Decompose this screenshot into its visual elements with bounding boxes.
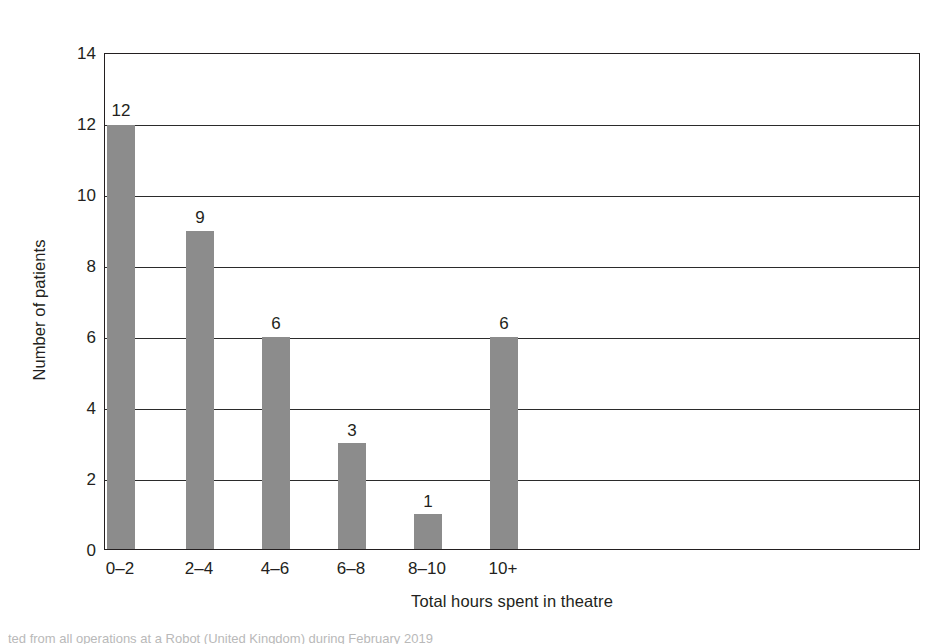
bar-value-label-0-2: 12 — [101, 102, 141, 119]
y-tick-label: 14 — [62, 45, 96, 62]
bar-chart-figure: Number of patients 14 12 10 8 6 4 2 0 12… — [0, 0, 951, 644]
bar-6-8[interactable] — [338, 443, 366, 549]
y-axis-tick-labels: 14 12 10 8 6 4 2 0 — [60, 0, 96, 644]
x-tick-label-10plus: 10+ — [465, 558, 541, 580]
y-tick-label: 4 — [62, 400, 96, 417]
bars-layer — [105, 54, 919, 549]
x-axis-tick-labels: 0–2 2–4 4–6 6–8 8–10 10+ — [104, 558, 920, 586]
y-tick-label: 10 — [62, 187, 96, 204]
bar-0-2[interactable] — [107, 125, 135, 549]
figure-source-caption: ted from all operations at a Robot (Unit… — [8, 632, 868, 644]
y-tick-label: 8 — [62, 258, 96, 275]
x-tick-label-8-10: 8–10 — [389, 558, 465, 580]
y-axis-title: Number of patients — [22, 40, 56, 580]
y-tick-label: 12 — [62, 116, 96, 133]
bar-value-label-2-4: 9 — [180, 209, 220, 226]
bar-2-4[interactable] — [186, 231, 214, 549]
y-tick-label: 6 — [62, 329, 96, 346]
plot-area: 12 9 6 3 1 6 — [104, 53, 920, 550]
bar-value-label-8-10: 1 — [408, 493, 448, 510]
y-tick-label: 0 — [62, 542, 96, 559]
bar-4-6[interactable] — [262, 337, 290, 549]
x-tick-label-0-2: 0–2 — [82, 558, 158, 580]
bar-value-label-10plus: 6 — [484, 315, 524, 332]
bar-8-10[interactable] — [414, 514, 442, 549]
bar-10plus[interactable] — [490, 337, 518, 549]
y-tick-label: 2 — [62, 471, 96, 488]
x-axis-title: Total hours spent in theatre — [104, 592, 920, 611]
x-tick-label-6-8: 6–8 — [313, 558, 389, 580]
x-tick-label-2-4: 2–4 — [161, 558, 237, 580]
x-tick-label-4-6: 4–6 — [237, 558, 313, 580]
bar-value-label-4-6: 6 — [256, 315, 296, 332]
bar-value-label-6-8: 3 — [332, 422, 372, 439]
